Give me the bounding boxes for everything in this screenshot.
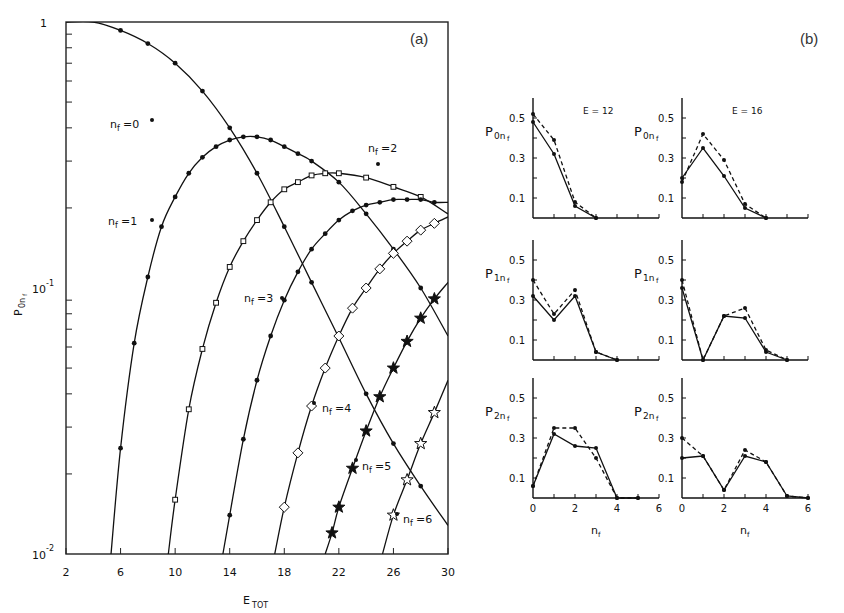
- annotation-sub: f: [117, 124, 120, 133]
- marker-dot: [118, 446, 123, 451]
- y-tick-label: 0.1: [658, 473, 674, 484]
- marker-star: [387, 362, 399, 374]
- data-point: [785, 358, 789, 362]
- subplot-p_1nf-e16: 0.10.30.5P1nf: [634, 240, 808, 362]
- data-point: [615, 496, 619, 500]
- dashed-line: [533, 114, 596, 218]
- data-point: [764, 348, 768, 352]
- data-point: [552, 138, 556, 142]
- solid-line: [682, 456, 808, 498]
- annotation-arrow: [312, 401, 316, 405]
- marker-star: [360, 425, 372, 437]
- data-point: [701, 454, 705, 458]
- subplot-ylabel-sub: 0n: [494, 131, 505, 141]
- annotation-value: =6: [416, 513, 432, 526]
- y-axis-label: P0nf: [12, 293, 28, 316]
- data-point: [764, 216, 768, 220]
- dashed-line: [682, 438, 808, 498]
- annotation-nf-1: nf=1: [108, 215, 154, 230]
- data-point: [701, 358, 705, 362]
- subplot-ylabel-subsub: f: [656, 415, 659, 423]
- data-point: [573, 204, 577, 208]
- subplot-ylabel-sub: 2n: [643, 411, 654, 421]
- marker-dot: [418, 197, 423, 202]
- marker-dot: [336, 218, 341, 223]
- x-tick-label: 0: [530, 503, 536, 514]
- curve: [66, 21, 448, 525]
- data-point: [573, 200, 577, 204]
- marker-diamond: [320, 363, 330, 373]
- annotation-n: n: [403, 513, 410, 526]
- series-nf-2: [168, 171, 448, 554]
- annotation-n: n: [108, 215, 115, 228]
- annotation-n: n: [322, 402, 329, 415]
- x-tick-label: 6: [656, 503, 662, 514]
- marker-dot: [173, 195, 178, 200]
- marker-square: [186, 407, 191, 412]
- subplot-ylabel-subsub: f: [507, 415, 510, 423]
- data-point: [552, 312, 556, 316]
- subplot-p_2nf-e12: 0.10.30.5P2nf0246nf: [485, 378, 662, 539]
- x-axis-label: n: [740, 524, 747, 537]
- annotation-nf-4: nf=4: [312, 401, 351, 417]
- x-tick-label: 4: [763, 503, 769, 514]
- annotation-arrow: [395, 512, 399, 516]
- data-point: [573, 426, 577, 430]
- subplot-p_2nf-e16: 0.10.30.5P2nf0246nf: [634, 378, 811, 539]
- y-tick-exponent: -1: [46, 279, 54, 288]
- subplot-ylabel: P: [485, 266, 493, 281]
- x-axis-label: E: [243, 594, 250, 607]
- marker-square: [296, 180, 301, 185]
- series-nf-6: [383, 380, 448, 554]
- marker-dot: [391, 197, 396, 202]
- marker-square: [336, 171, 341, 176]
- annotation-nf-3: nf=3: [244, 292, 284, 307]
- marker-square: [214, 300, 219, 305]
- x-tick-label: 14: [223, 566, 237, 579]
- x-tick-label: 18: [277, 566, 291, 579]
- annotation-nf-2: nf=2: [368, 142, 397, 166]
- marker-square: [173, 497, 178, 502]
- y-axis-label-sub: 0n: [18, 298, 27, 308]
- marker-diamond: [361, 283, 371, 293]
- marker-dot: [323, 231, 328, 236]
- marker-dot: [132, 341, 137, 346]
- marker-dot: [309, 280, 314, 285]
- data-point: [531, 484, 535, 488]
- subplot-ylabel: P: [485, 404, 493, 419]
- x-tick-label: 2: [63, 566, 70, 579]
- marker-dot: [214, 144, 219, 149]
- dashed-line: [533, 428, 638, 498]
- subplot-ylabel-sub: 0n: [643, 131, 654, 141]
- x-tick-label: 2: [572, 503, 578, 514]
- marker-square: [282, 187, 287, 192]
- dashed-line: [682, 280, 787, 360]
- annotation-value: =2: [381, 142, 397, 155]
- marker-star: [415, 437, 427, 449]
- data-point: [636, 496, 640, 500]
- data-point: [701, 132, 705, 136]
- marker-dot: [255, 171, 260, 176]
- marker-dot: [377, 200, 382, 205]
- x-axis-label-sub: TOT: [251, 601, 268, 610]
- subplot-ylabel: P: [485, 124, 493, 139]
- data-point: [531, 278, 535, 282]
- x-tick-label: 2: [721, 503, 727, 514]
- y-tick-label: 0.3: [509, 433, 525, 444]
- marker-dot: [173, 61, 178, 66]
- marker-dot: [241, 437, 246, 442]
- data-point: [594, 456, 598, 460]
- data-point: [531, 294, 535, 298]
- data-point: [722, 314, 726, 318]
- y-tick-label: 0.5: [658, 113, 674, 124]
- marker-dot: [296, 269, 301, 274]
- marker-dot: [159, 224, 164, 229]
- subplot-ylabel: P: [634, 404, 642, 419]
- marker-dot: [309, 247, 314, 252]
- marker-square: [227, 265, 232, 270]
- annotation-nf-6: nf=6: [395, 512, 432, 528]
- x-tick-label: 6: [117, 566, 124, 579]
- annotation-value: =4: [335, 402, 351, 415]
- marker-dot: [268, 138, 273, 143]
- marker-diamond: [429, 218, 439, 228]
